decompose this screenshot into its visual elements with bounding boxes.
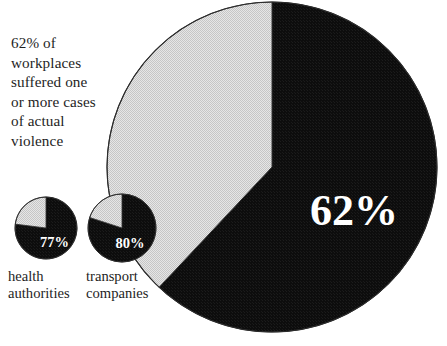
pie-slice-health-authorities-1 (15, 197, 46, 228)
slice-value-health-authorities: 77% (40, 234, 69, 250)
chart-caption: 62% of workplaces suffered one or more c… (11, 33, 161, 151)
slice-value-transport-companies: 80% (116, 235, 145, 251)
pie-chart-figure: 62% 77% 80% 62% of workplaces suffered o… (0, 0, 447, 346)
pie-label-transport-companies: transport companies (86, 268, 182, 303)
clipped-footer-text (10, 338, 210, 346)
slice-value-main: 62% (310, 186, 398, 235)
pie-label-health-authorities: health authorities (8, 268, 86, 303)
